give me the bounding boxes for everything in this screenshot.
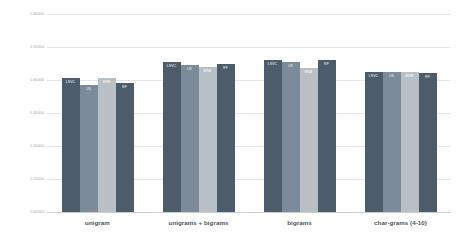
bar-series-label: RF xyxy=(116,85,134,89)
y-tick-label: 0.10000 xyxy=(4,177,44,181)
bar-slot: LSVC xyxy=(365,14,383,212)
bar-rf[interactable]: RF xyxy=(217,64,235,213)
bar-slot: LR xyxy=(80,14,98,212)
bar-series-label: LSVC xyxy=(163,64,181,68)
bar-mnb[interactable]: MNB xyxy=(401,72,419,212)
bar-slot: LSVC xyxy=(62,14,80,212)
bar-lsvc[interactable]: LSVC xyxy=(365,72,383,212)
bar-series-label: LSVC xyxy=(62,80,80,84)
bar-slot: RF xyxy=(217,14,235,212)
bar-slot: MNB xyxy=(401,14,419,212)
x-tick-label: char-grams (4-10) xyxy=(350,219,451,226)
bar-series-label: LR xyxy=(383,74,401,78)
bar-series-label: MNB xyxy=(300,70,318,74)
bar-series-label: RF xyxy=(318,62,336,66)
bar-group: LSVCLRMNBRF xyxy=(47,14,148,212)
bar-slot: RF xyxy=(318,14,336,212)
bar-group-bars: LSVCLRMNBRF xyxy=(47,14,148,212)
bar-series-label: LR xyxy=(80,87,98,91)
x-tick-label: bigrams xyxy=(249,219,350,226)
bar-group: LSVCLRMNBRF xyxy=(350,14,451,212)
bar-slot: LSVC xyxy=(163,14,181,212)
bar-slot: LR xyxy=(181,14,199,212)
bar-lsvc[interactable]: LSVC xyxy=(264,60,282,212)
x-tick-label: unigram xyxy=(47,219,148,226)
bar-slot: MNB xyxy=(199,14,217,212)
bar-series-label: RF xyxy=(217,66,235,70)
bar-group-bars: LSVCLRMNBRF xyxy=(249,14,350,212)
bar-series-label: MNB xyxy=(98,80,116,84)
bar-series-label: LSVC xyxy=(365,74,383,78)
bar-rf[interactable]: RF xyxy=(318,60,336,212)
bar-rf[interactable]: RF xyxy=(116,83,134,212)
bar-series-label: MNB xyxy=(401,74,419,78)
bar-rf[interactable]: RF xyxy=(419,73,437,212)
bar-slot: MNB xyxy=(98,14,116,212)
bar-lsvc[interactable]: LSVC xyxy=(62,78,80,212)
bar-series-label: LSVC xyxy=(264,62,282,66)
bar-lr[interactable]: LR xyxy=(282,62,300,212)
bar-group: LSVCLRMNBRF xyxy=(148,14,249,212)
bar-series-label: MNB xyxy=(199,69,217,73)
gridline-0.00000 xyxy=(47,212,451,213)
bar-lr[interactable]: LR xyxy=(383,72,401,212)
bar-mnb[interactable]: MNB xyxy=(199,67,217,212)
bar-series-label: LR xyxy=(181,67,199,71)
bar-group-bars: LSVCLRMNBRF xyxy=(350,14,451,212)
y-tick-label: 0.60000 xyxy=(4,12,44,16)
bar-slot: LR xyxy=(282,14,300,212)
bar-mnb[interactable]: MNB xyxy=(300,68,318,212)
bar-lr[interactable]: LR xyxy=(181,65,199,212)
bar-group-bars: LSVCLRMNBRF xyxy=(148,14,249,212)
bar-slot: RF xyxy=(116,14,134,212)
bar-series-label: LR xyxy=(282,64,300,68)
y-tick-label: 0.40000 xyxy=(4,78,44,82)
plot-area: LSVCLRMNBRFLSVCLRMNBRFLSVCLRMNBRFLSVCLRM… xyxy=(47,14,451,212)
bar-lsvc[interactable]: LSVC xyxy=(163,62,181,212)
bar-series-label: RF xyxy=(419,75,437,79)
y-tick-label: 0.50000 xyxy=(4,45,44,49)
bar-lr[interactable]: LR xyxy=(80,85,98,212)
bar-group: LSVCLRMNBRF xyxy=(249,14,350,212)
y-tick-label: 0.20000 xyxy=(4,144,44,148)
bar-slot: LSVC xyxy=(264,14,282,212)
x-tick-label: unigrams + bigrams xyxy=(148,219,249,226)
y-tick-label: 0.30000 xyxy=(4,111,44,115)
bar-chart: LSVCLRMNBRFLSVCLRMNBRFLSVCLRMNBRFLSVCLRM… xyxy=(0,0,461,245)
bar-mnb[interactable]: MNB xyxy=(98,78,116,212)
bar-slot: RF xyxy=(419,14,437,212)
bar-slot: LR xyxy=(383,14,401,212)
bar-slot: MNB xyxy=(300,14,318,212)
y-tick-label: 0.00000 xyxy=(4,210,44,214)
